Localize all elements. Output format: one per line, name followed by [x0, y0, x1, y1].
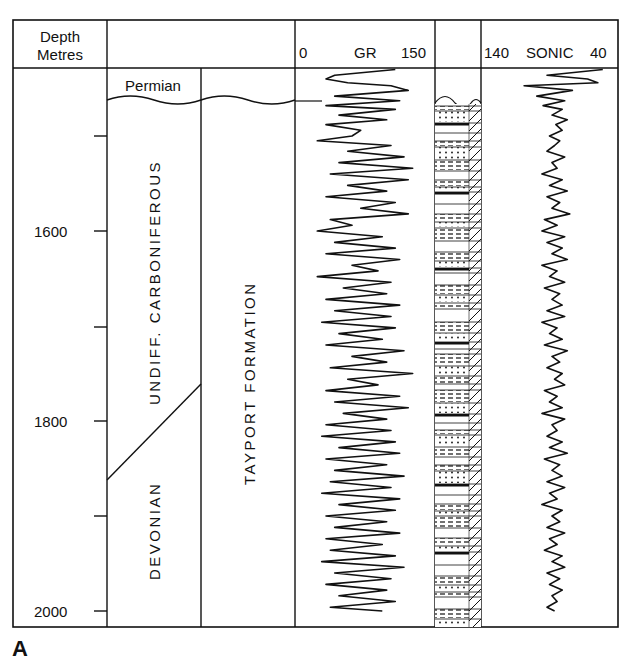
lithology-column: [435, 97, 481, 628]
depth-header-line1: Depth: [40, 28, 80, 45]
well-log-figure: Depth Metres 0 GR 150 140 SONIC 40 1600 …: [0, 0, 632, 661]
carboniferous-label: UNDIFF. CARBONIFEROUS: [146, 160, 163, 405]
formation-label: TAYPORT FORMATION: [241, 281, 258, 485]
sonic-scale-left: 140: [484, 44, 509, 61]
devonian-label: DEVONIAN: [146, 482, 163, 580]
permian-label: Permian: [125, 77, 181, 94]
depth-tick-1600: 1600: [34, 223, 67, 240]
gr-scale-min: 0: [299, 44, 307, 61]
depth-ticks: [94, 136, 107, 611]
sonic-title: SONIC: [526, 44, 574, 61]
gr-title: GR: [354, 44, 377, 61]
depth-tick-2000: 2000: [34, 603, 67, 620]
depth-tick-1800: 1800: [34, 413, 67, 430]
gr-curve: [317, 70, 412, 612]
depth-header-line2: Metres: [37, 46, 83, 63]
gr-scale-max: 150: [401, 44, 426, 61]
panel-label: A: [12, 636, 28, 661]
sonic-scale-right: 40: [590, 44, 607, 61]
chart-frame: [13, 20, 618, 627]
sonic-curve: [524, 70, 603, 612]
